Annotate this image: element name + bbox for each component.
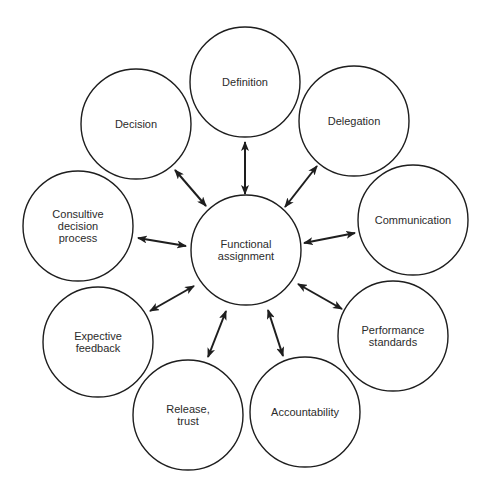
nodes-layer xyxy=(23,27,468,470)
bidirectional-arrow-icon-accountability xyxy=(268,310,283,356)
node-expective-feedback-circle xyxy=(43,287,153,397)
bidirectional-arrow-icon-delegation xyxy=(285,166,317,207)
node-performance-standards-circle xyxy=(338,281,448,391)
diagram-canvas xyxy=(0,0,493,494)
node-communication-circle xyxy=(358,165,468,275)
bidirectional-arrow-icon-release-trust xyxy=(208,311,226,357)
node-release-trust-circle xyxy=(133,360,243,470)
node-accountability-circle xyxy=(250,357,360,467)
node-decision-circle xyxy=(81,69,191,179)
bidirectional-arrow-icon-expective-feedback xyxy=(150,286,194,311)
bidirectional-arrow-icon-consultive-decision-process xyxy=(138,238,186,246)
node-definition-circle xyxy=(190,27,300,137)
functional-assignment-diagram: Functional assignmentDefinitionDelegatio… xyxy=(0,0,493,494)
node-delegation-circle xyxy=(299,66,409,176)
bidirectional-arrow-icon-decision xyxy=(175,170,206,206)
node-functional-assignment-circle xyxy=(191,195,301,305)
bidirectional-arrow-icon-performance-standards xyxy=(298,284,342,309)
bidirectional-arrow-icon-communication xyxy=(304,233,355,243)
node-consultive-decision-process-circle xyxy=(23,171,133,281)
